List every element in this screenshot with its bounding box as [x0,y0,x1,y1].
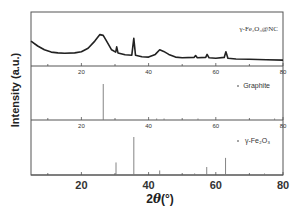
xrd-trace [31,35,283,61]
x-tick-label: 60 [210,179,222,191]
x-tick-label: 40 [145,123,152,129]
x-tick-label: 80 [280,69,287,75]
x-tick-label: 80 [280,123,287,129]
xrd-chart: 20406080γ-Fe₂O₃@NC20406080Graphite204060… [0,0,300,216]
legend-marker [237,85,239,87]
x-tick-label: 20 [75,179,87,191]
legend-label: γ-Fe₂O₃ [245,137,270,145]
plot-frame [31,12,283,175]
x-tick-label: 60 [212,123,219,129]
x-tick-label: 20 [78,123,85,129]
x-tick-label: 40 [142,179,154,191]
x-tick-label: 40 [145,69,152,75]
x-axis-label: 2θ(°) [125,192,195,206]
legend-marker [237,140,239,142]
x-tick-label: 20 [78,69,85,75]
y-axis-label: Intensity (a.u.) [9,35,21,145]
legend-label: Graphite [243,82,270,90]
legend-label: γ-Fe₂O₃@NC [238,25,278,33]
x-tick-label: 60 [212,69,219,75]
x-tick-label: 80 [277,179,289,191]
